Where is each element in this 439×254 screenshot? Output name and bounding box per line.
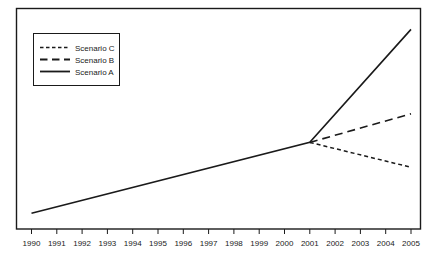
x-axis-tick-labels: 1990 1991 1992 1993 1994 1995 1996 1997 … [23,239,421,248]
chart-legend: Scenario C Scenario B Scenario A [34,34,120,86]
x-tick-label: 1990 [23,239,41,248]
x-tick-label: 1997 [200,239,218,248]
x-tick-label: 1994 [124,239,142,248]
x-tick-label: 1996 [174,239,192,248]
scenario-line-chart: 1990 1991 1992 1993 1994 1995 1996 1997 … [0,0,439,254]
x-tick-label: 2000 [276,239,294,248]
x-tick-label: 1999 [250,239,268,248]
legend-label-scenario-b: Scenario B [75,56,114,65]
x-tick-label: 1995 [149,239,167,248]
x-tick-label: 1993 [99,239,117,248]
legend-label-scenario-a: Scenario A [75,68,114,77]
legend-label-scenario-c: Scenario C [75,44,115,53]
x-tick-label: 2005 [402,239,420,248]
x-tick-label: 1998 [225,239,243,248]
x-tick-label: 2004 [377,239,395,248]
x-tick-label: 1991 [48,239,66,248]
chart-canvas: 1990 1991 1992 1993 1994 1995 1996 1997 … [0,0,439,254]
x-axis-ticks [32,229,412,234]
x-tick-label: 2002 [326,239,344,248]
x-tick-label: 2001 [301,239,319,248]
x-tick-label: 2003 [352,239,370,248]
x-tick-label: 1992 [73,239,91,248]
